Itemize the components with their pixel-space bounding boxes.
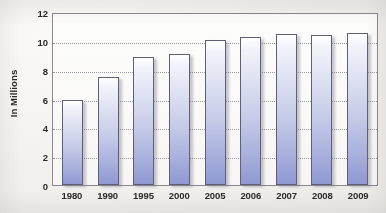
x-tick-label: 2005 bbox=[197, 190, 233, 206]
bar-slot bbox=[197, 14, 233, 185]
y-tick-label: 4 bbox=[28, 123, 48, 134]
bar-slot bbox=[55, 14, 91, 185]
bar bbox=[311, 35, 332, 185]
y-tick-label: 10 bbox=[28, 36, 48, 47]
x-tick-label: 2000 bbox=[161, 190, 197, 206]
x-tick-label: 2009 bbox=[340, 190, 376, 206]
y-tick-label: 12 bbox=[28, 8, 48, 19]
bar-slot bbox=[304, 14, 340, 185]
y-axis-tick-labels: 12 10 8 6 4 2 0 bbox=[22, 0, 48, 213]
bar-slot bbox=[268, 14, 304, 185]
y-tick-label: 2 bbox=[28, 152, 48, 163]
bar bbox=[205, 40, 226, 185]
x-tick-label: 2006 bbox=[233, 190, 269, 206]
plot-area bbox=[52, 13, 378, 186]
bar-slot bbox=[233, 14, 269, 185]
bar-series bbox=[53, 14, 377, 185]
bar bbox=[276, 34, 297, 185]
bar-slot bbox=[91, 14, 127, 185]
y-axis-title-label: In Millions bbox=[9, 69, 20, 117]
y-tick-label: 0 bbox=[28, 181, 48, 192]
bar-slot bbox=[126, 14, 162, 185]
bar-slot bbox=[340, 14, 376, 185]
bar-chart-screenshot: In Millions 12 10 8 6 4 2 0 198019901995… bbox=[0, 0, 386, 213]
y-tick-label: 8 bbox=[28, 65, 48, 76]
y-tick-label: 6 bbox=[28, 94, 48, 105]
bar-slot bbox=[162, 14, 198, 185]
x-tick-label: 1995 bbox=[126, 190, 162, 206]
bar bbox=[133, 57, 154, 185]
bar bbox=[347, 33, 368, 185]
x-tick-label: 2007 bbox=[269, 190, 305, 206]
x-axis-tick-labels: 198019901995200020052006200720082009 bbox=[52, 190, 378, 206]
x-tick-label: 2008 bbox=[304, 190, 340, 206]
bar bbox=[169, 54, 190, 185]
bar bbox=[240, 37, 261, 185]
x-tick-label: 1980 bbox=[54, 190, 90, 206]
x-tick-label: 1990 bbox=[90, 190, 126, 206]
bar bbox=[62, 100, 83, 186]
bar bbox=[98, 77, 119, 185]
